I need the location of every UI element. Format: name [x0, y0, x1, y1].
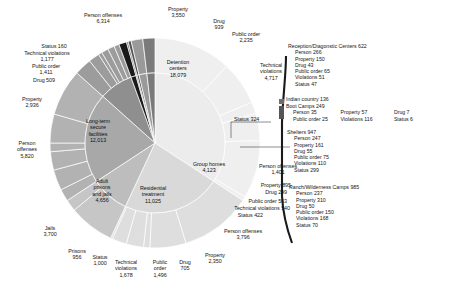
- callout-boot-camps: Boot Camps 249 Person 35 Property 57 Dru…: [286, 103, 413, 122]
- inner-label-group-homes: Group homes 4,123: [180, 161, 238, 174]
- inner-label-adult-prisons: Adult prisons and jails 4,656: [78, 178, 126, 204]
- sunburst-chart: Detention centers 18,079 Long-term secur…: [0, 0, 450, 297]
- outer-label-residential-public-order: Public order 1,496: [145, 259, 175, 278]
- callout-item: Status 70: [289, 222, 359, 228]
- outer-label-residential-technical-violations: Technical violations 1,678: [105, 259, 147, 278]
- swatch-indian-country: [279, 99, 284, 104]
- callout-item: Property 161: [287, 142, 329, 148]
- inner-label-detention-centers: Detention centers 18,079: [148, 59, 208, 78]
- outer-label-detention-drug: Drug 939: [203, 18, 235, 31]
- callout-cell: Public order 25: [293, 116, 339, 122]
- callout-shelters: Shelters 947 Person 247 Property 161 Dru…: [287, 129, 329, 173]
- outer-label-jails: Jails 3,700: [30, 225, 70, 238]
- callout-ranch-wilderness-camps: Ranch/Wilderness Camps 985 Person 237 Pr…: [289, 184, 359, 228]
- outer-label-residential-property: Property 2,350: [196, 252, 234, 265]
- callout-item: Status 299: [287, 167, 329, 173]
- callout-cell: Violations 116: [340, 116, 392, 122]
- outer-label-longterm-drug: Drug 509: [13, 77, 75, 83]
- outer-label-residential-drug: Drug 705: [172, 259, 198, 272]
- inner-label-residential-treatment: Residential treatment 11,025: [124, 185, 182, 204]
- callout-cell: Status 6: [394, 116, 413, 122]
- outer-label-grouphomes-status: Status 422: [207, 212, 263, 218]
- callout-item: Status 47: [288, 81, 367, 87]
- callout-indian-country: Indian country 136: [286, 96, 329, 102]
- callout-header-indian-country: Indian country 136: [286, 96, 329, 102]
- outer-label-detention-status: Status 324: [234, 116, 280, 122]
- callout-reception-diagnostic-centers: Reception/Diagonstic Centers 622 Person …: [288, 43, 367, 87]
- outer-label-detention-property: Property 3,550: [155, 6, 201, 19]
- outer-label-longterm-property: Property 2,936: [6, 96, 58, 109]
- inner-label-long-term-secure: Long-term secure facilities 12,013: [68, 118, 128, 144]
- outer-label-residential-person-offenses: Person offenses 3,796: [212, 228, 274, 241]
- callout-row: Public order 25 Violations 116 Status 6: [286, 116, 413, 122]
- outer-label-grouphomes-technical-violations: Technical violations 540: [212, 205, 290, 211]
- outer-label-longterm-person-offenses: Person offenses 5,820: [1, 140, 53, 159]
- outer-label-detention-person-offenses: Person offenses 6,314: [68, 12, 138, 25]
- outer-label-longterm-public-order: Public order 1,411: [13, 63, 79, 76]
- outer-label-longterm-status: Status 160: [20, 43, 88, 49]
- outer-label-grouphomes-drug: Drug 299: [229, 189, 287, 195]
- outer-label-grouphomes-public-order: Public order 563: [221, 198, 287, 204]
- outer-label-detention-public-order: Public order 2,235: [222, 31, 270, 44]
- outer-label-longterm-technical-violations: Technical violations 1,177: [5, 50, 89, 63]
- callout-item: Violations 110: [287, 160, 329, 166]
- outer-label-grouphomes-property: Property 895: [233, 182, 291, 188]
